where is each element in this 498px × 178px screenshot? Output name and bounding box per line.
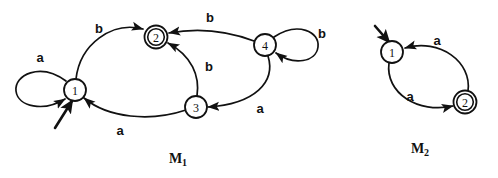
edge-label-m2-2-1-a: a xyxy=(433,33,441,48)
machine-caption-m2-base: M xyxy=(411,141,424,156)
machine-m2: 1 2 a a M2 xyxy=(375,26,477,158)
state-label-m2-2: 2 xyxy=(462,96,468,110)
machine-caption-m2-sub: 2 xyxy=(424,147,429,158)
edge-label-4-2-b: b xyxy=(206,10,214,25)
state-node-m2-2[interactable]: 2 xyxy=(454,91,477,114)
start-arrow-m1 xyxy=(55,101,72,128)
start-arrow-m2 xyxy=(375,26,389,42)
transition-1-1-a xyxy=(16,72,66,107)
state-label-m2-1: 1 xyxy=(389,46,395,60)
state-label-4: 4 xyxy=(262,39,268,53)
transition-3-1-a xyxy=(84,98,186,117)
state-node-3[interactable]: 3 xyxy=(185,96,207,118)
transition-4-2-b xyxy=(169,30,254,41)
edge-label-4-3-a: a xyxy=(256,101,264,116)
state-node-4[interactable]: 4 xyxy=(254,34,276,56)
machine-caption-m2: M2 xyxy=(411,141,429,158)
edge-label-4-4-b: b xyxy=(318,26,326,41)
machine-caption-m1: M1 xyxy=(169,151,187,168)
transition-m2-1-2-a xyxy=(389,63,453,108)
edge-label-3-2-b: b xyxy=(205,59,213,74)
state-node-m2-1[interactable]: 1 xyxy=(381,41,403,63)
state-label-3: 3 xyxy=(193,101,199,115)
machine-caption-m1-sub: 1 xyxy=(182,157,187,168)
fsm-diagram-canvas: 1 2 3 4 a b b b b a a M1 xyxy=(0,0,498,178)
edge-label-1-2-b: b xyxy=(95,21,103,36)
edge-label-1-1-a: a xyxy=(36,50,44,65)
edge-label-3-1-a: a xyxy=(116,123,124,138)
state-node-2[interactable]: 2 xyxy=(145,26,168,49)
state-node-1[interactable]: 1 xyxy=(64,79,86,101)
state-label-2: 2 xyxy=(153,31,159,45)
edge-label-m2-1-2-a: a xyxy=(406,89,414,104)
transition-4-4-b xyxy=(274,29,318,61)
machine-m1: 1 2 3 4 a b b b b a a M1 xyxy=(16,10,326,168)
transition-1-2-b xyxy=(76,27,143,79)
state-label-1: 1 xyxy=(72,84,78,98)
transition-m2-2-1-a xyxy=(405,46,468,91)
transition-3-2-b xyxy=(168,43,198,96)
transition-4-3-a xyxy=(208,56,270,107)
machine-caption-m1-base: M xyxy=(169,151,182,166)
